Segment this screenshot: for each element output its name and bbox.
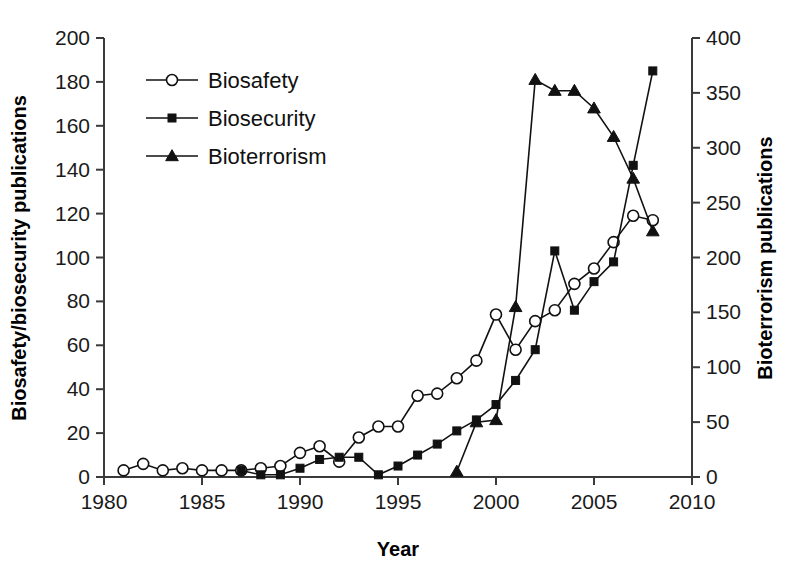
marker-open-circle xyxy=(628,210,639,221)
marker-open-circle xyxy=(589,263,600,274)
marker-filled-square xyxy=(237,466,245,474)
tick-label-group: 0204060801001201401601802000501001502002… xyxy=(55,26,741,513)
y-left-tick-label: 80 xyxy=(67,289,90,312)
y-left-tick-label: 60 xyxy=(67,333,90,356)
y-left-tick-label: 200 xyxy=(55,26,90,49)
x-tick-label: 2005 xyxy=(571,490,618,513)
chart-canvas: 0204060801001201401601802000501001502002… xyxy=(0,0,796,574)
marker-open-circle xyxy=(393,421,404,432)
marker-open-circle xyxy=(216,465,227,476)
x-axis-title: Year xyxy=(377,538,419,560)
marker-filled-square xyxy=(551,247,559,255)
marker-filled-square xyxy=(629,161,637,169)
marker-open-circle xyxy=(177,463,188,474)
marker-filled-triangle xyxy=(529,73,542,84)
marker-filled-square xyxy=(433,440,441,448)
marker-filled-square xyxy=(296,464,304,472)
marker-filled-square xyxy=(453,427,461,435)
y-left-tick-label: 120 xyxy=(55,202,90,225)
marker-open-circle xyxy=(491,309,502,320)
marker-filled-square xyxy=(512,376,520,384)
y-axis-left-title: Biosafety/biosecurity publications xyxy=(8,95,30,421)
y-left-tick-label: 0 xyxy=(78,465,90,488)
marker-open-circle xyxy=(373,421,384,432)
y-right-tick-label: 0 xyxy=(706,465,718,488)
series-polyline xyxy=(124,216,653,471)
y-right-tick-label: 100 xyxy=(706,355,741,378)
marker-filled-square xyxy=(414,451,422,459)
marker-filled-triangle xyxy=(548,84,561,95)
plot-frame xyxy=(104,38,692,477)
y-right-tick-label: 350 xyxy=(706,81,741,104)
marker-open-circle xyxy=(432,388,443,399)
series-biosafety xyxy=(118,210,658,476)
marker-filled-square xyxy=(649,67,657,75)
marker-open-circle xyxy=(569,278,580,289)
x-tick-label: 1985 xyxy=(179,490,226,513)
marker-filled-square xyxy=(590,278,598,286)
marker-open-circle xyxy=(530,316,541,327)
marker-open-circle xyxy=(314,441,325,452)
y-right-tick-label: 250 xyxy=(706,191,741,214)
x-tick-label: 1990 xyxy=(277,490,324,513)
marker-filled-triangle xyxy=(166,150,179,161)
y-left-tick-label: 100 xyxy=(55,246,90,269)
marker-open-circle xyxy=(157,465,168,476)
marker-open-circle xyxy=(451,373,462,384)
marker-filled-square xyxy=(355,453,363,461)
marker-filled-triangle xyxy=(627,172,640,183)
y-left-tick-label: 160 xyxy=(55,114,90,137)
y-left-tick-label: 180 xyxy=(55,70,90,93)
y-right-tick-label: 300 xyxy=(706,136,741,159)
marker-filled-triangle xyxy=(509,301,522,312)
legend-item-biosecurity[interactable]: Biosecurity xyxy=(146,106,316,131)
x-tick-label: 1980 xyxy=(81,490,128,513)
marker-filled-square xyxy=(257,471,265,479)
marker-open-circle xyxy=(197,465,208,476)
marker-filled-square xyxy=(570,306,578,314)
y-right-tick-label: 400 xyxy=(706,26,741,49)
marker-filled-square xyxy=(374,471,382,479)
y-right-tick-label: 50 xyxy=(706,410,729,433)
legend-item-label: Biosecurity xyxy=(208,106,316,131)
legend-item-biosafety[interactable]: Biosafety xyxy=(146,68,299,93)
marker-open-circle xyxy=(510,344,521,355)
marker-open-circle xyxy=(353,432,364,443)
y-right-tick-label: 200 xyxy=(706,246,741,269)
marker-open-circle xyxy=(471,355,482,366)
data-series-group xyxy=(118,67,659,479)
marker-open-circle xyxy=(549,305,560,316)
marker-open-circle xyxy=(412,390,423,401)
legend-item-bioterrorism[interactable]: Bioterrorism xyxy=(146,144,327,169)
marker-open-circle xyxy=(295,447,306,458)
marker-filled-square xyxy=(168,114,176,122)
x-tick-label: 1995 xyxy=(375,490,422,513)
marker-filled-triangle xyxy=(490,414,503,425)
marker-filled-square xyxy=(316,455,324,463)
marker-filled-square xyxy=(276,471,284,479)
legend-item-label: Bioterrorism xyxy=(208,144,327,169)
y-right-tick-label: 150 xyxy=(706,300,741,323)
marker-open-circle xyxy=(167,75,178,86)
marker-filled-square xyxy=(531,346,539,354)
marker-filled-triangle xyxy=(450,465,463,476)
y-left-tick-label: 140 xyxy=(55,158,90,181)
y-left-tick-label: 20 xyxy=(67,421,90,444)
marker-open-circle xyxy=(275,461,286,472)
x-tick-label: 2000 xyxy=(473,490,520,513)
marker-filled-triangle xyxy=(568,84,581,95)
publications-trend-chart: 0204060801001201401601802000501001502002… xyxy=(0,0,796,574)
marker-filled-triangle xyxy=(646,225,659,236)
marker-filled-square xyxy=(394,462,402,470)
y-axis-right-title: Bioterrorism publications xyxy=(754,136,776,379)
marker-open-circle xyxy=(118,465,129,476)
marker-open-circle xyxy=(138,458,149,469)
y-left-tick-label: 40 xyxy=(67,377,90,400)
x-tick-label: 2010 xyxy=(669,490,716,513)
marker-filled-triangle xyxy=(607,130,620,141)
marker-filled-square xyxy=(610,258,618,266)
marker-filled-square xyxy=(335,453,343,461)
legend-item-label: Biosafety xyxy=(208,68,299,93)
chart-legend: BiosafetyBiosecurityBioterrorism xyxy=(146,68,327,169)
